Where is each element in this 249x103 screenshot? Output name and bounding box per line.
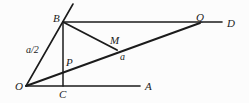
segment-OQ — [26, 23, 200, 86]
point-label-B: B — [53, 13, 60, 24]
segment-BM — [63, 22, 117, 50]
point-label-O: O — [15, 81, 23, 92]
point-label-D: D — [227, 18, 235, 29]
geometry-figure: B Q D M P O C A a/2 a — [0, 0, 249, 103]
point-label-P: P — [66, 57, 73, 68]
point-label-C: C — [59, 89, 66, 100]
label-a-over-2: a/2 — [26, 45, 39, 55]
point-label-A: A — [145, 81, 152, 92]
point-label-M: M — [110, 35, 119, 46]
point-label-Q: Q — [196, 12, 204, 23]
label-a: a — [120, 52, 125, 62]
